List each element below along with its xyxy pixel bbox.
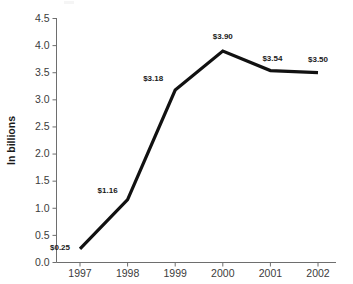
- data-point-label: $3.50: [308, 55, 329, 64]
- y-axis-tick-label: 1.0: [35, 202, 50, 214]
- data-point-label: $3.54: [262, 54, 283, 63]
- x-axis-tick-label: 1998: [116, 267, 140, 279]
- y-axis-tick-label: 4.5: [35, 12, 50, 24]
- data-point-label: $3.18: [143, 74, 164, 83]
- chart-canvas: 0.00.51.01.52.02.53.03.54.04.51997199819…: [0, 0, 353, 284]
- y-axis: 0.00.51.01.52.02.53.03.54.04.5: [35, 12, 57, 268]
- x-axis-tick-label: 1999: [164, 267, 188, 279]
- y-axis-tick-label: 3.0: [35, 93, 50, 105]
- x-axis-tick-label: 2002: [306, 267, 330, 279]
- data-point-label: $1.16: [98, 186, 119, 195]
- data-point-label: $0.25: [50, 243, 71, 252]
- scan-artifact: [64, 1, 74, 4]
- y-axis-tick-label: 4.0: [35, 39, 50, 51]
- data-series-line: [80, 51, 318, 249]
- y-axis-tick-label: 2.0: [35, 147, 50, 159]
- x-axis: 199719981999200020012002: [57, 263, 337, 280]
- x-axis-tick-label: 2001: [259, 267, 283, 279]
- x-axis-tick-label: 2000: [211, 267, 235, 279]
- y-axis-tick-label: 2.5: [35, 120, 50, 132]
- x-axis-tick-label: 1997: [68, 267, 92, 279]
- data-point-labels: $0.25$1.16$3.18$3.90$3.54$3.50: [50, 32, 329, 252]
- y-axis-tick-label: 3.5: [35, 66, 50, 78]
- y-axis-tick-label: 1.5: [35, 174, 50, 186]
- y-axis-tick-label: 0.5: [35, 229, 50, 241]
- data-point-label: $3.90: [213, 32, 234, 41]
- line-chart: 0.00.51.01.52.02.53.03.54.04.51997199819…: [0, 0, 353, 284]
- y-axis-tick-label: 0.0: [35, 256, 50, 268]
- y-axis-title: In billions: [5, 116, 17, 165]
